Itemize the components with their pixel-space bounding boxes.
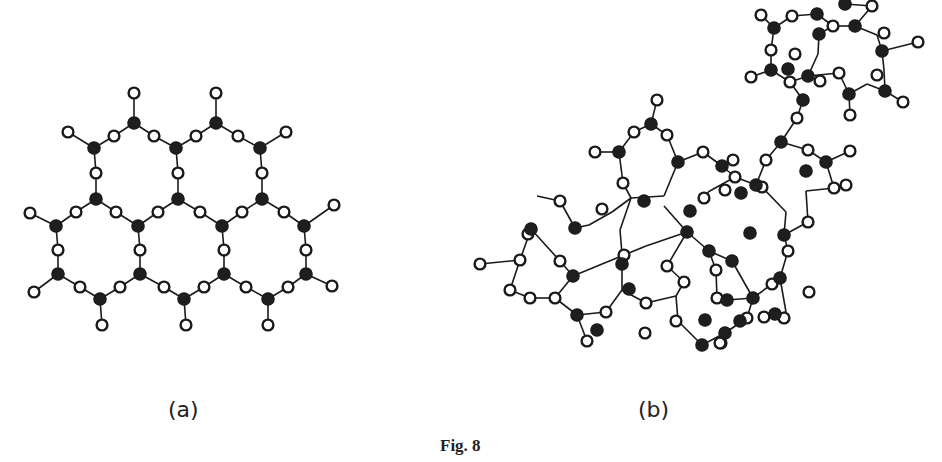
open-atom <box>135 245 146 256</box>
open-atom <box>75 282 86 293</box>
open-atom <box>263 320 274 331</box>
filled-atom <box>645 118 657 130</box>
filled-atom <box>254 142 266 154</box>
panel-label-a: (a) <box>168 397 199 422</box>
open-atom <box>525 293 536 304</box>
filled-atom <box>769 308 781 320</box>
open-atom <box>29 287 40 298</box>
filled-atom <box>94 293 106 305</box>
open-atom <box>730 172 741 183</box>
open-atom <box>281 127 292 138</box>
open-atom <box>97 320 108 331</box>
filled-atom <box>298 220 310 232</box>
open-atom <box>845 110 856 121</box>
filled-atom <box>134 268 146 280</box>
filled-atom <box>567 270 579 282</box>
filled-atom <box>778 229 790 241</box>
open-atom <box>159 282 170 293</box>
filled-atom <box>839 0 851 10</box>
filled-atom <box>216 220 228 232</box>
open-atom <box>785 77 796 88</box>
open-atom <box>53 245 64 256</box>
open-atom <box>828 21 839 32</box>
filled-atom <box>726 255 738 267</box>
filled-atom <box>813 28 825 40</box>
open-atom <box>766 45 777 56</box>
filled-atom <box>703 245 715 257</box>
open-atom <box>25 208 36 219</box>
open-atom <box>761 155 772 166</box>
open-atom <box>711 265 722 276</box>
open-atom <box>601 307 612 318</box>
filled-atom <box>218 268 230 280</box>
filled-atom <box>571 309 583 321</box>
figure-caption: Fig. 8 <box>440 436 481 456</box>
filled-atom <box>672 156 684 168</box>
open-atom <box>787 11 798 22</box>
open-atom <box>618 178 629 189</box>
open-atom <box>111 207 122 218</box>
open-atom <box>475 259 486 270</box>
open-atom <box>898 97 909 108</box>
open-atom <box>746 72 757 83</box>
open-atom <box>301 245 312 256</box>
open-atom <box>191 131 202 142</box>
filled-atom <box>782 63 794 75</box>
open-atom <box>241 282 252 293</box>
open-atom <box>257 168 268 179</box>
open-atom <box>841 180 852 191</box>
filled-atom <box>775 136 787 148</box>
open-atom <box>815 76 826 87</box>
open-atom <box>671 316 682 327</box>
filled-atom <box>262 293 274 305</box>
filled-atom <box>811 8 823 20</box>
open-atom <box>173 168 184 179</box>
filled-atom <box>616 258 628 270</box>
open-atom <box>555 256 566 267</box>
open-atom <box>699 193 710 204</box>
open-atom <box>662 130 673 141</box>
panel-label-b: (b) <box>638 397 669 422</box>
filled-atom <box>765 64 777 76</box>
open-atom <box>804 287 815 298</box>
filled-atom <box>591 324 603 336</box>
filled-atom <box>802 70 814 82</box>
open-atom <box>590 147 601 158</box>
filled-atom <box>178 293 190 305</box>
filled-atom <box>256 193 268 205</box>
filled-atom <box>638 195 650 207</box>
filled-atom <box>744 227 756 239</box>
filled-atom <box>90 193 102 205</box>
open-atom <box>329 200 340 211</box>
open-atom <box>327 281 338 292</box>
filled-atom <box>716 160 728 172</box>
filled-atom <box>210 117 222 129</box>
filled-atom <box>876 45 888 57</box>
filled-atom <box>735 187 747 199</box>
open-atom <box>641 298 652 309</box>
filled-atom <box>170 142 182 154</box>
filled-atom <box>613 146 625 158</box>
filled-atom <box>696 339 708 351</box>
open-atom <box>759 312 770 323</box>
filled-atom <box>747 292 759 304</box>
open-atom <box>555 196 566 207</box>
open-atom <box>698 147 709 158</box>
atoms-panel-a <box>25 88 340 331</box>
filled-atom <box>50 220 62 232</box>
open-atom <box>109 131 120 142</box>
bonds-panel-b <box>480 4 918 345</box>
filled-atom <box>52 268 64 280</box>
open-atom <box>283 282 294 293</box>
filled-atom <box>172 193 184 205</box>
filled-atom <box>768 22 780 34</box>
open-atom <box>505 285 516 296</box>
panel-b-random-network <box>475 0 924 351</box>
open-atom <box>783 246 794 257</box>
open-atom <box>720 185 731 196</box>
filled-atom <box>797 94 809 106</box>
open-atom <box>679 277 690 288</box>
filled-atom <box>88 142 100 154</box>
open-atom <box>582 336 593 347</box>
filled-atom <box>132 220 144 232</box>
